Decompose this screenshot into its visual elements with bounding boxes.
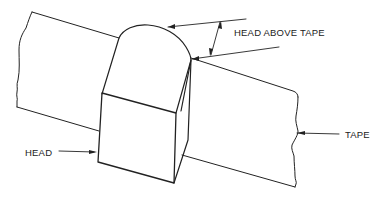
- tape-top-edge-right: [191, 58, 298, 97]
- tape-left-edge: [17, 12, 32, 107]
- head-tape-diagram: HEAD ABOVE TAPE TAPE HEAD: [0, 0, 388, 199]
- tape-bottom-edge-left: [17, 107, 99, 131]
- head-rounded-top: [102, 25, 191, 111]
- head-arrowhead: [89, 150, 97, 154]
- head-front-face: [98, 93, 176, 183]
- tape-bottom-edge-right: [182, 155, 295, 187]
- label-head-above-tape: HEAD ABOVE TAPE: [234, 28, 325, 38]
- tape-top-edge-left: [32, 12, 119, 38]
- diagram-drawing: [0, 0, 388, 199]
- dimension-extension-top: [168, 19, 246, 27]
- head-leader-line: [59, 151, 94, 152]
- dimension-extension-bottom: [192, 47, 279, 59]
- label-head: HEAD: [25, 148, 52, 158]
- tape-right-edge: [292, 97, 298, 187]
- head-side-face: [174, 60, 191, 183]
- label-tape: TAPE: [345, 130, 370, 140]
